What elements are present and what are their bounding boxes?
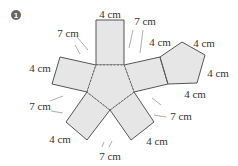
- svg-text:1: 1: [14, 11, 19, 20]
- label-left-width: 4 cm: [29, 62, 51, 74]
- label-bottom-length: 7 cm: [99, 150, 121, 162]
- label-left-lower-length: 7 cm: [29, 100, 51, 112]
- label-pentagon-right-side: 4 cm: [207, 67, 229, 79]
- label-upper-right-width: 4 cm: [149, 36, 171, 48]
- top-rectangle-face: [96, 20, 124, 65]
- prism-net-diagram: 1 4 cm 7 cm 7 cm 4 cm 4 cm 4 cm 4 cm 4 c…: [0, 0, 238, 166]
- label-top-right-length: 7 cm: [134, 15, 156, 27]
- label-right-lower-length: 7 cm: [170, 110, 192, 122]
- label-top-left-length: 7 cm: [57, 27, 79, 39]
- label-top-width: 4 cm: [99, 8, 121, 20]
- label-pentagon-top-side: 4 cm: [193, 37, 215, 49]
- label-bottom-left-width: 4 cm: [49, 133, 71, 145]
- label-right-rect-width: 4 cm: [184, 88, 206, 100]
- problem-number-badge: 1: [11, 10, 21, 20]
- label-bottom-right-width: 4 cm: [146, 135, 168, 147]
